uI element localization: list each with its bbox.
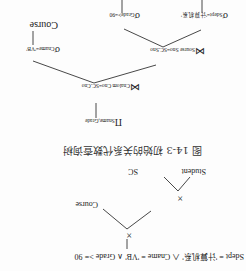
selection-sdept-node: σSdept='计算机系' bbox=[181, 9, 228, 27]
edge-cross1-course bbox=[127, 211, 151, 229]
edge-cross1-cross2 bbox=[103, 209, 127, 229]
pi-symbol: Π bbox=[115, 117, 122, 128]
selection-cname-node: σCname='VB' bbox=[26, 43, 60, 61]
join-icon: ⋈ bbox=[130, 82, 140, 93]
projection-node: ΠSname,Grade bbox=[85, 115, 122, 133]
sigma-icon: σ bbox=[55, 45, 60, 56]
node-course-bottom: Course bbox=[30, 20, 58, 31]
join-node-1: ⋈Cnalom Cno=SC.Cno bbox=[82, 80, 140, 98]
sigma-icon: σ bbox=[135, 11, 140, 22]
node-course-top: Course bbox=[75, 200, 98, 209]
edge-cross2-sc bbox=[178, 177, 190, 191]
cross-product-2: × bbox=[177, 193, 183, 204]
selection-grade-node: σGrade>=90 bbox=[109, 9, 140, 27]
node-sc: SC bbox=[128, 167, 138, 176]
join-node-2: ⋈Sourse Sno=SC.Sno bbox=[150, 44, 205, 62]
cross-product-1: × bbox=[126, 230, 132, 241]
join-icon: ⋈ bbox=[195, 46, 205, 57]
sigma-icon: σ bbox=[223, 11, 228, 22]
edge-cross2-student bbox=[164, 177, 178, 191]
selection-condition: σ Sdept = '计算机系' ∧ Cname = 'VB' ∧ Grade … bbox=[75, 252, 244, 263]
figure-caption: 图 14-3 初始的关系代数查询树 bbox=[63, 144, 202, 159]
scanned-page: σ Sdept = '计算机系' ∧ Cname = 'VB' ∧ Grade … bbox=[0, 0, 246, 271]
node-student: Student bbox=[182, 167, 206, 176]
tree-edges bbox=[0, 0, 246, 271]
